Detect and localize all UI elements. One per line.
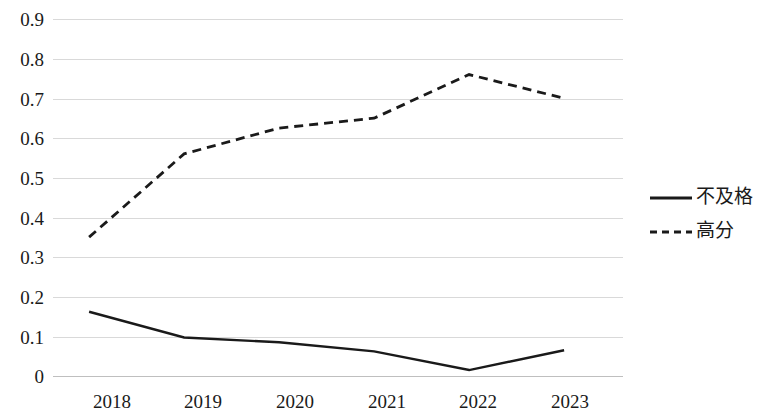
x-tick-label: 2021 [368, 391, 406, 412]
chart-canvas: 0.9 0.8 0.7 0.6 0.5 0.4 0.3 0.2 0.1 0 20… [0, 0, 765, 417]
line-chart: 0.9 0.8 0.7 0.6 0.5 0.4 0.3 0.2 0.1 0 20… [0, 0, 765, 417]
x-tick-label: 2019 [184, 391, 222, 412]
y-tick-label: 0.1 [20, 327, 44, 348]
x-tick-label: 2020 [276, 391, 314, 412]
y-tick-label: 0.7 [20, 89, 44, 110]
y-gridlines [53, 20, 623, 377]
y-tick-label: 0 [35, 366, 45, 387]
x-tick-label: 2023 [551, 391, 589, 412]
plot-series-group [89, 75, 564, 371]
y-tick-label: 0.2 [20, 287, 44, 308]
x-axis-tick-labels: 2018 2019 2020 2021 2022 2023 [93, 391, 589, 412]
series-line-bujige [89, 312, 564, 370]
y-tick-label: 0.6 [20, 128, 44, 149]
chart-legend: 不及格 高分 [650, 186, 753, 241]
y-tick-label: 0.9 [20, 9, 44, 30]
y-tick-label: 0.5 [20, 168, 44, 189]
x-tick-label: 2022 [459, 391, 497, 412]
y-tick-label: 0.3 [20, 247, 44, 268]
legend-label-gaofen: 高分 [696, 220, 734, 241]
y-axis-tick-labels: 0.9 0.8 0.7 0.6 0.5 0.4 0.3 0.2 0.1 0 [20, 9, 44, 387]
legend-label-bujige: 不及格 [696, 186, 753, 207]
y-tick-label: 0.8 [20, 49, 44, 70]
x-tick-label: 2018 [93, 391, 131, 412]
y-tick-label: 0.4 [20, 208, 44, 229]
